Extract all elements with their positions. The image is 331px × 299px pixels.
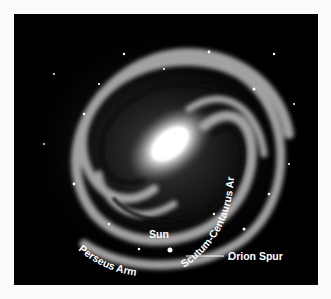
- galaxy-image: Scutum-Centaurus Arm Sun Orion Spur Pers…: [14, 14, 318, 285]
- sun-marker: [168, 248, 173, 253]
- galaxy-illustration: Scutum-Centaurus Arm Sun Orion Spur Pers…: [14, 14, 318, 285]
- label-orion-spur: Orion Spur: [228, 250, 283, 262]
- label-sun: Sun: [149, 228, 169, 240]
